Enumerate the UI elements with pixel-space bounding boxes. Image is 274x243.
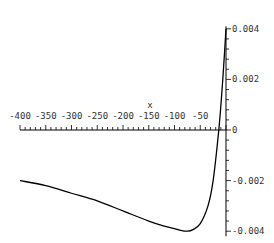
x-tick-label: -50: [192, 111, 208, 121]
y-tick-label: 0: [232, 125, 237, 135]
x-tick-label: -400: [9, 111, 31, 121]
x-tick-label: -150: [138, 111, 160, 121]
x-tick-label: -200: [112, 111, 134, 121]
y-tick-label: -0.002: [232, 176, 265, 186]
x-axis: -400-350-300-250-200-150-100-50: [9, 111, 226, 130]
x-axis-label: x: [147, 100, 153, 110]
chart: -400-350-300-250-200-150-100-50 0.0040.0…: [0, 0, 274, 243]
y-tick-label: 0.002: [232, 74, 259, 84]
x-tick-label: -300: [61, 111, 83, 121]
y-tick-label: 0.004: [232, 24, 259, 34]
x-tick-label: -350: [35, 111, 57, 121]
y-axis: 0.0040.0020-0.002-0.004: [226, 24, 265, 236]
x-tick-label: -250: [86, 111, 108, 121]
y-tick-label: -0.004: [232, 226, 265, 236]
x-tick-label: -100: [164, 111, 186, 121]
